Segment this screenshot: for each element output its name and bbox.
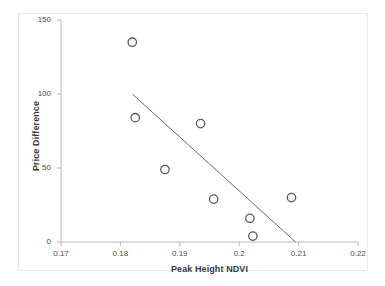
y-axis-title: Price Difference: [31, 76, 41, 196]
trend-line: [132, 94, 295, 242]
data-point-marker: [131, 113, 139, 121]
data-point-marker: [196, 119, 204, 127]
data-point-marker: [246, 214, 254, 222]
y-tick-marks: [57, 20, 61, 242]
scatter-plot-canvas: [0, 0, 385, 286]
axes-lines: [61, 20, 358, 242]
x-tick-label: 0.19: [160, 249, 200, 258]
x-tick-label: 0.2: [219, 249, 259, 258]
x-axis-title: Peak Height NDVI: [61, 264, 358, 274]
y-tick-label: 150: [21, 15, 51, 24]
x-tick-marks: [61, 242, 358, 246]
x-tick-label: 0.21: [279, 249, 319, 258]
chart-figure: 050100150 0.170.180.190.20.210.22 Price …: [0, 0, 385, 286]
x-tick-label: 0.18: [100, 249, 140, 258]
x-tick-label: 0.17: [41, 249, 81, 258]
data-points: [128, 38, 296, 240]
data-point-marker: [287, 193, 295, 201]
data-point-marker: [209, 195, 217, 203]
data-point-marker: [249, 232, 257, 240]
trend-line-segment: [132, 94, 295, 242]
x-tick-label: 0.22: [338, 249, 378, 258]
y-tick-label: 0: [21, 237, 51, 246]
data-point-marker: [161, 165, 169, 173]
data-point-marker: [128, 38, 136, 46]
